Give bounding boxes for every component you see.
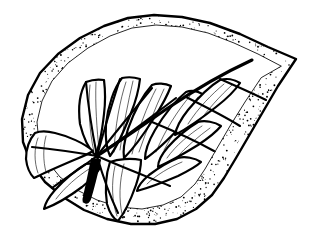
figure-root: Black-and-white stippled pen-and-ink dra… [0,0,313,238]
vein-hub-node [94,153,99,158]
leaf-illustration: Black-and-white stippled pen-and-ink dra… [0,0,313,238]
